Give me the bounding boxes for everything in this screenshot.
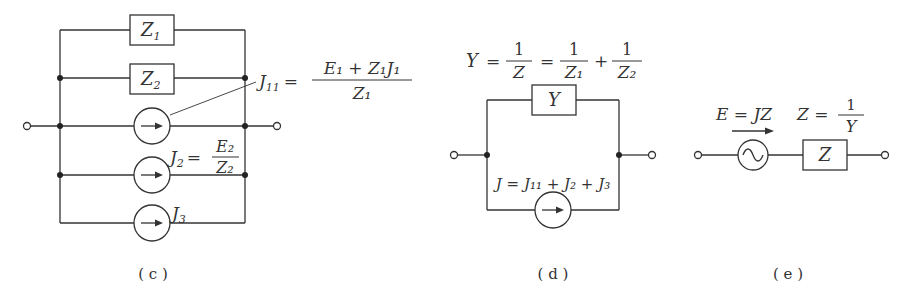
z-box-label: Z: [818, 144, 832, 165]
arrow-icon: [542, 207, 564, 214]
circuit-diagrams: Z1 Z2 J11= E₁ + Z₁J₁ Z₁ J2= E₂ Z₂ J3 ( c…: [0, 0, 899, 301]
caption-e: ( e ): [773, 265, 803, 283]
j11-denominator: Z₁: [352, 83, 372, 103]
z1-label: Z1: [140, 19, 161, 43]
frac1-numerator: 1: [514, 40, 524, 59]
equals-sign: =: [540, 51, 554, 71]
plus-sign: +: [594, 51, 608, 71]
j2-denominator: Z₂: [215, 158, 234, 177]
leader-line: [170, 82, 256, 115]
caption-d: ( d ): [538, 265, 569, 283]
terminal-right: [882, 152, 889, 159]
equals-sign: =: [486, 51, 500, 71]
y-label: Y: [466, 50, 480, 71]
j2-label: J2=: [167, 147, 201, 170]
frac3-denominator: Z₂: [617, 62, 637, 82]
voltage-label: E = JZ: [715, 104, 773, 124]
j3-label: J3: [169, 203, 186, 226]
terminal-left: [24, 123, 31, 130]
voltage-arrow-icon: [732, 128, 774, 135]
terminal-right: [649, 152, 656, 159]
y-box-label: Y: [548, 89, 562, 110]
caption-c: ( c ): [138, 265, 168, 283]
terminal-left: [451, 152, 458, 159]
j11-numerator: E₁ + Z₁J₁: [323, 58, 401, 78]
frac3-numerator: 1: [622, 40, 632, 59]
frac2-numerator: 1: [569, 40, 579, 59]
j2-numerator: E₂: [215, 137, 234, 156]
z-eq-denominator: Y: [846, 117, 858, 136]
figure-c: [24, 15, 413, 241]
z-eq-numerator: 1: [846, 96, 856, 114]
frac2-denominator: Z₁: [564, 62, 584, 82]
z2-label: Z2: [140, 68, 161, 92]
terminal-right: [274, 123, 281, 130]
sine-wave-icon: [743, 149, 763, 161]
frac1-denominator: Z: [512, 62, 526, 82]
arrow-icon: [141, 123, 163, 227]
junction-dots: [484, 152, 622, 158]
figure-d: [451, 61, 656, 228]
terminal-left: [695, 152, 702, 159]
z-eq-label: Z =: [796, 104, 828, 124]
j11-label: J11=: [256, 71, 298, 94]
j-sum-label: J = J₁₁ + J₂ + J₃: [493, 175, 610, 193]
